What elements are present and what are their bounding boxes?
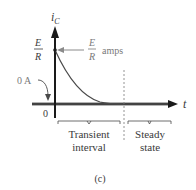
steady-label-line1: Steady — [135, 128, 165, 140]
steady-label-line2: state — [140, 141, 160, 153]
svg-text:E: E — [88, 37, 95, 48]
initial-value-annotation: E R amps — [57, 37, 123, 62]
current-axis-label: iC — [51, 10, 60, 26]
pointer-arrow-icon — [57, 47, 64, 53]
svg-text:amps: amps — [102, 45, 123, 56]
transient-brace — [58, 121, 120, 124]
figure-caption: (c) — [94, 173, 105, 185]
svg-text:E: E — [34, 37, 41, 48]
svg-text:R: R — [34, 51, 41, 62]
time-axis — [32, 100, 178, 108]
initial-point — [53, 48, 57, 52]
origin-label: 0 — [43, 108, 48, 119]
zero-annotation: 0 A — [17, 75, 51, 101]
svg-text:0 A: 0 A — [17, 75, 32, 86]
transient-label-line2: interval — [72, 141, 106, 153]
time-axis-label: t — [183, 97, 187, 111]
curved-arrow-icon — [45, 94, 51, 101]
initial-value-label: E R — [34, 37, 43, 62]
capacitor-current-diagram: t iC 0 E R E R amps 0 A Trans — [0, 0, 196, 190]
current-axis-arrow-icon — [51, 26, 59, 38]
svg-text:R: R — [88, 51, 95, 62]
steady-brace — [128, 121, 171, 124]
time-axis-arrow-icon — [168, 100, 178, 108]
transient-label-line1: Transient — [68, 128, 109, 140]
